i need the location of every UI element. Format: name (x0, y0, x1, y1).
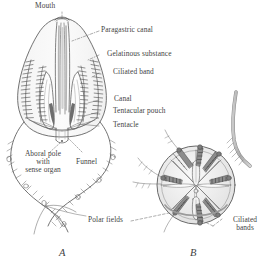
label-canal: Canal (114, 95, 132, 103)
figure-a-body (7, 17, 116, 234)
label-mouth: Mouth (35, 2, 55, 10)
label-gelatinous-substance: Gelatinous substance (107, 50, 172, 58)
label-tentacle: Tentacle (113, 121, 139, 129)
figure-caption-a: A (59, 247, 65, 258)
label-ciliated-bands-line2: bands (236, 223, 254, 232)
label-aboral-pole-line3: sense organ (25, 165, 61, 174)
figure-caption-b: B (190, 247, 196, 258)
label-paragastric-canal: Paragastric canal (101, 26, 153, 34)
label-polar-fields: Polar fields (88, 216, 123, 224)
label-ciliated-band: Ciliated band (113, 68, 154, 76)
label-funnel: Funnel (76, 158, 97, 166)
label-tentacular-pouch: Tentacular pouch (113, 107, 166, 115)
